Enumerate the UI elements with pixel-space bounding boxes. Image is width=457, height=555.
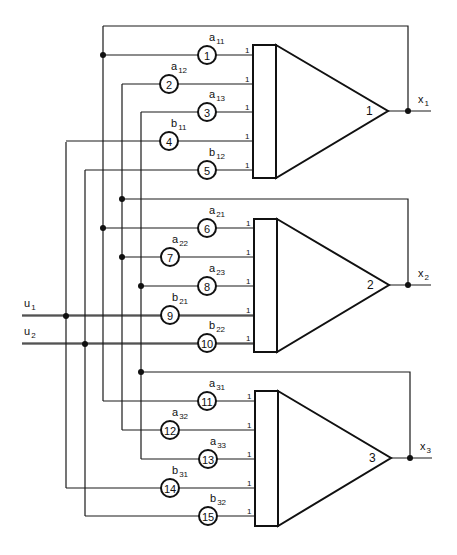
junction-dot — [100, 225, 106, 231]
coef-label: a12 — [171, 60, 188, 75]
coef-label-subscript: 11 — [178, 123, 187, 132]
junction-dot — [63, 313, 69, 319]
coef-pot-8: 8a231 — [198, 262, 251, 295]
u2-label: u2 — [24, 325, 36, 340]
coef-pot-15: 15b321 — [199, 492, 252, 525]
summing-block — [255, 391, 278, 526]
coef-number: 8 — [204, 281, 210, 293]
coef-pot-5: 5b121 — [198, 146, 250, 179]
coef-label: b31 — [172, 464, 189, 479]
input-gain: 1 — [246, 248, 251, 257]
coef-label-subscript: 21 — [179, 297, 188, 306]
input-gain: 1 — [245, 75, 250, 84]
analog-computer-diagram: 123 1a1112a1213a1314b1115b1216a2117a2218… — [0, 0, 457, 555]
amplifier-blocks: 123 — [253, 45, 391, 526]
coef-label-main: a — [172, 406, 179, 418]
coef-number: 6 — [204, 223, 210, 235]
coef-label-subscript: 11 — [216, 37, 225, 46]
coef-label-main: a — [209, 31, 216, 43]
coef-pot-3: 3a131 — [198, 88, 250, 121]
junction-dot — [119, 254, 125, 260]
coef-label: a21 — [209, 204, 226, 219]
coef-label-subscript: 32 — [217, 498, 226, 507]
coef-label: a33 — [210, 435, 227, 450]
coef-label: a22 — [172, 233, 189, 248]
input-gain: 1 — [247, 421, 252, 430]
amplifier-number: 3 — [369, 451, 376, 465]
coef-label-main: a — [209, 88, 216, 100]
u1-label: u1 — [24, 297, 36, 312]
coef-pot-10: 10b221 — [198, 319, 251, 352]
u2-label-subscript: 2 — [31, 331, 36, 340]
coef-label-subscript: 22 — [179, 239, 188, 248]
input-gain: 1 — [246, 334, 251, 343]
summing-block — [253, 45, 276, 178]
coef-label-main: a — [209, 377, 216, 389]
input-gain: 1 — [247, 392, 252, 401]
amplifier-number: 1 — [366, 104, 373, 118]
coef-pot-7: 7a221 — [161, 233, 251, 266]
coef-pot-13: 13a331 — [199, 435, 252, 468]
coef-number: 10 — [201, 338, 213, 350]
coef-number: 4 — [166, 136, 172, 148]
coef-pot-11: 11a311 — [198, 377, 252, 410]
coef-label: a32 — [172, 406, 189, 421]
coef-label-subscript: 21 — [216, 210, 225, 219]
output-x3-label-main: x — [420, 440, 426, 452]
coef-label-main: a — [171, 60, 178, 72]
coef-number: 9 — [167, 310, 173, 322]
coef-label: a23 — [209, 262, 226, 277]
coef-label-subscript: 12 — [216, 152, 225, 161]
coef-number: 1 — [204, 50, 210, 62]
coef-label: b12 — [209, 146, 226, 161]
coef-label-main: b — [210, 492, 216, 504]
coef-number: 11 — [201, 396, 212, 408]
coef-pot-2: 2a121 — [160, 60, 250, 93]
output-x3-label: x3 — [420, 440, 432, 455]
coef-pot-14: 14b311 — [161, 464, 252, 497]
coef-label-main: b — [172, 464, 178, 476]
coef-number: 13 — [202, 454, 214, 466]
output-junction-dot — [407, 455, 413, 461]
coef-label-main: a — [209, 262, 216, 274]
coef-number: 3 — [204, 107, 210, 119]
coef-pot-4: 4b111 — [160, 117, 250, 150]
amplifier-number: 2 — [367, 278, 374, 292]
junction-dot — [119, 196, 125, 202]
coef-label: b32 — [210, 492, 227, 507]
junction-dot — [138, 369, 144, 375]
coef-number: 7 — [167, 252, 173, 264]
output-x2-label: x2 — [418, 267, 430, 282]
coef-label: a31 — [209, 377, 226, 392]
coef-number: 12 — [164, 425, 176, 437]
input-gain: 1 — [247, 479, 252, 488]
input-gain: 1 — [245, 161, 250, 170]
coef-label-main: a — [209, 204, 216, 216]
coef-label: b21 — [172, 291, 189, 306]
input-gain: 1 — [246, 306, 251, 315]
coef-pot-9: 9b211 — [161, 291, 251, 324]
input-gain: 1 — [247, 450, 252, 459]
coef-label-subscript: 31 — [179, 470, 188, 479]
input-gain: 1 — [245, 132, 250, 141]
u2-label-main: u — [24, 325, 30, 337]
coef-label-main: b — [209, 319, 215, 331]
coef-label: a11 — [209, 31, 225, 46]
coef-number: 5 — [204, 165, 210, 177]
coef-label-subscript: 22 — [216, 325, 225, 334]
junction-dot — [138, 283, 144, 289]
coef-label: b22 — [209, 319, 226, 334]
coef-label-subscript: 31 — [216, 383, 225, 392]
amplifier-1: 1 — [253, 45, 388, 178]
coef-label-subscript: 23 — [216, 268, 225, 277]
amplifier-3: 3 — [255, 391, 391, 526]
coef-number: 14 — [164, 483, 176, 495]
coef-label-subscript: 32 — [179, 412, 188, 421]
coef-label-subscript: 13 — [216, 94, 225, 103]
output-x2-label-main: x — [418, 267, 424, 279]
junction-dot — [82, 341, 88, 347]
coef-label: b11 — [171, 117, 187, 132]
output-junction-dot — [405, 282, 411, 288]
output-junction-dot — [405, 108, 411, 114]
input-gain: 1 — [245, 103, 250, 112]
